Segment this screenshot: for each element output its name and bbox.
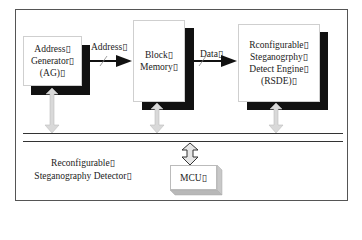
mcu-label: MCU▯	[180, 172, 207, 184]
address-arrow-icon	[90, 55, 132, 67]
caption-line-2: Steganography Detector▯	[28, 170, 138, 183]
detector-caption: Reconfigurable▯ Steganography Detector▯	[28, 157, 138, 183]
memory-bus-double-arrow-icon	[150, 103, 164, 133]
rsde-bus-double-arrow-icon	[269, 103, 283, 133]
ag-bus-double-arrow-icon	[45, 88, 59, 133]
caption-line-1: Reconfigurable▯	[28, 157, 138, 170]
data-arrow-icon	[194, 55, 237, 67]
mcu-block: MCU▯	[170, 165, 217, 190]
mcu-bus-double-arrow-icon	[182, 143, 198, 165]
